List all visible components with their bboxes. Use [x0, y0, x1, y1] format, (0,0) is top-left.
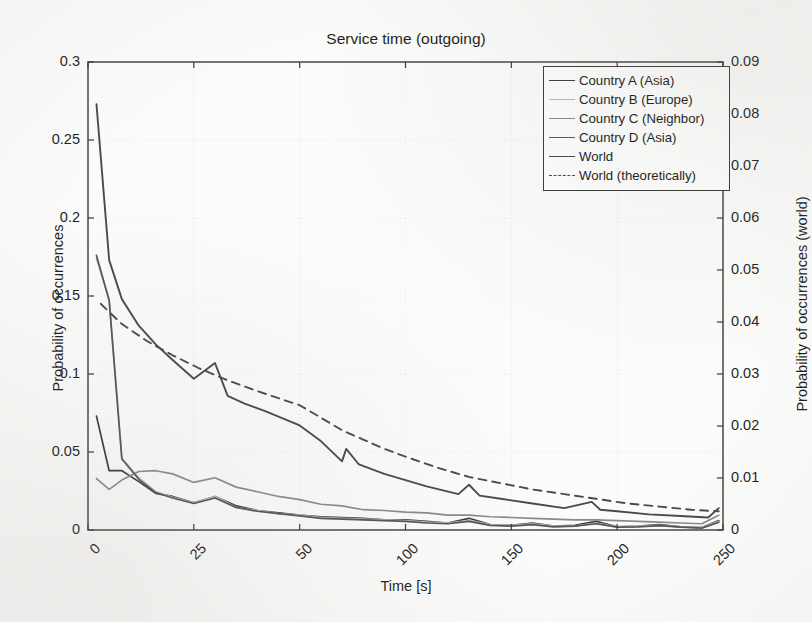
- y-tick-label-left: 0.1: [8, 365, 80, 381]
- y-tick-label-right: 0.01: [731, 469, 791, 485]
- legend-swatch-icon: [549, 113, 575, 125]
- legend-swatch-icon: [549, 151, 575, 163]
- legend-label: World (theoretically): [579, 169, 696, 182]
- y-tick-label-left: 0.2: [8, 209, 80, 225]
- series-line-3: [96, 255, 718, 528]
- legend-label: Country D (Asia): [579, 131, 676, 144]
- y-tick-label-right: 0: [731, 521, 791, 537]
- series-line-2: [96, 471, 718, 524]
- y-tick-label-right: 0.09: [731, 53, 791, 69]
- legend-item[interactable]: Country C (Neighbor): [549, 109, 724, 128]
- y-tick-label-right: 0.06: [731, 209, 791, 225]
- y-tick-label-right: 0.04: [731, 313, 791, 329]
- y-tick-label-right: 0.08: [731, 105, 791, 121]
- legend-item[interactable]: Country A (Asia): [549, 71, 724, 90]
- legend-item[interactable]: World (theoretically): [549, 166, 724, 185]
- y-tick-label-right: 0.05: [731, 261, 791, 277]
- y-tick-label-left: 0.05: [8, 443, 80, 459]
- legend-item[interactable]: Country D (Asia): [549, 128, 724, 147]
- y-tick-label-left: 0.25: [8, 131, 80, 147]
- legend-swatch-icon: [549, 94, 575, 106]
- legend-label: Country A (Asia): [579, 74, 674, 87]
- chart-figure: Service time (outgoing) Probability of o…: [0, 0, 812, 622]
- series-line-1: [96, 259, 718, 528]
- legend-label: Country C (Neighbor): [579, 112, 704, 125]
- legend-swatch-icon: [549, 75, 575, 87]
- y-tick-label-right: 0.07: [731, 157, 791, 173]
- y-tick-label-left: 0: [8, 521, 80, 537]
- legend-item[interactable]: World: [549, 147, 724, 166]
- legend-item[interactable]: Country B (Europe): [549, 90, 724, 109]
- series-line-0: [96, 416, 718, 528]
- y-tick-label-right: 0.02: [731, 417, 791, 433]
- legend-label: World: [579, 150, 613, 163]
- chart-legend: Country A (Asia)Country B (Europe)Countr…: [543, 66, 730, 191]
- y-axis-label-right: Probability of occurrences (world): [794, 174, 810, 434]
- y-tick-label-left: 0.15: [8, 287, 80, 303]
- legend-label: Country B (Europe): [579, 93, 693, 106]
- y-tick-label-left: 0.3: [8, 53, 80, 69]
- legend-swatch-icon: [549, 170, 575, 182]
- legend-swatch-icon: [549, 132, 575, 144]
- y-tick-label-right: 0.03: [731, 365, 791, 381]
